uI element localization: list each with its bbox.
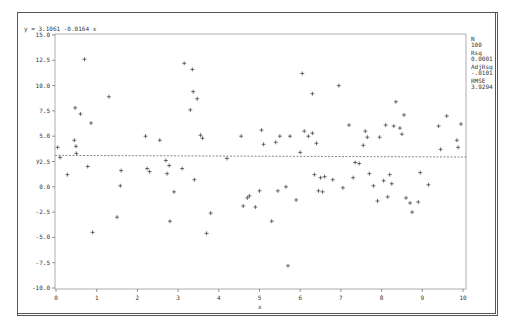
y-tick-label: -5.0	[36, 233, 51, 240]
data-point	[107, 95, 111, 99]
data-point	[119, 169, 123, 173]
stat-value: -.0101	[471, 69, 493, 76]
data-point	[388, 173, 392, 177]
data-point	[78, 112, 82, 116]
data-point	[276, 189, 280, 193]
x-tick-label: 10	[459, 294, 467, 301]
data-points	[56, 57, 463, 267]
plot-area	[55, 34, 466, 289]
data-point	[239, 134, 243, 138]
data-point	[408, 201, 412, 205]
y-tick-label: 5.0	[39, 132, 50, 139]
data-point	[455, 138, 459, 142]
data-point	[400, 132, 404, 136]
y-tick-label: 10.0	[36, 82, 51, 89]
data-point	[312, 173, 316, 177]
fit-statistics: N100Rsq0.0001AdjRsq-.0101RMSE3.9294	[471, 35, 493, 90]
data-point	[371, 184, 375, 188]
x-tick-label: 2	[136, 294, 140, 301]
data-point	[319, 176, 323, 180]
data-point	[353, 161, 357, 165]
data-point	[253, 205, 257, 209]
stat-value: 0.0001	[471, 55, 493, 62]
data-point	[115, 215, 119, 219]
data-point	[165, 172, 169, 176]
data-point	[382, 179, 386, 183]
data-point	[367, 172, 371, 176]
y-tick-label: 7.5	[39, 107, 50, 114]
data-point	[390, 182, 394, 186]
y-tick-label: 0.0	[39, 183, 50, 190]
data-point	[225, 156, 229, 160]
x-tick-label: 5	[258, 294, 262, 301]
data-point	[410, 210, 414, 214]
data-point	[190, 67, 194, 71]
x-tick-label: 8	[380, 294, 384, 301]
data-point	[365, 135, 369, 139]
data-point	[245, 196, 249, 200]
data-point	[258, 189, 262, 193]
data-point	[376, 199, 380, 203]
data-point	[384, 123, 388, 127]
data-point	[198, 133, 202, 137]
data-point	[437, 124, 441, 128]
data-point	[294, 198, 298, 202]
x-tick-label: 0	[54, 294, 58, 301]
data-point	[439, 147, 443, 151]
x-tick-label: 1	[95, 294, 99, 301]
data-point	[314, 141, 318, 145]
data-point	[260, 128, 264, 132]
data-point	[331, 178, 335, 182]
data-point	[58, 155, 62, 159]
y-tick-label: 15.0	[36, 31, 51, 38]
data-point	[286, 264, 290, 268]
data-point	[306, 134, 310, 138]
y-tick-label: 2.5	[39, 158, 50, 165]
data-point	[284, 185, 288, 189]
data-point	[394, 100, 398, 104]
x-tick-label: 4	[217, 294, 221, 301]
data-point	[164, 158, 168, 162]
y-tick-label: 12.5	[36, 56, 51, 63]
data-point	[351, 176, 355, 180]
data-point	[300, 71, 304, 75]
data-point	[168, 219, 172, 223]
data-point	[402, 113, 406, 117]
y-tick-label: -7.5	[36, 259, 51, 266]
data-point	[337, 84, 341, 88]
data-point	[195, 97, 199, 101]
data-point	[82, 57, 86, 61]
data-point	[310, 131, 314, 135]
data-point	[262, 142, 266, 146]
data-point	[247, 194, 251, 198]
x-axis: 012345678910	[54, 289, 467, 301]
data-point	[89, 121, 93, 125]
data-point	[91, 230, 95, 234]
data-point	[65, 173, 69, 177]
data-point	[205, 231, 209, 235]
data-point	[347, 123, 351, 127]
data-point	[182, 61, 186, 65]
data-point	[363, 129, 367, 133]
data-point	[191, 90, 195, 94]
data-point	[73, 106, 77, 110]
data-point	[158, 138, 162, 142]
stat-value: 3.9294	[471, 83, 493, 90]
data-point	[148, 170, 152, 174]
y-axis-label: y	[36, 157, 40, 165]
data-point	[310, 92, 314, 96]
data-point	[445, 114, 449, 118]
data-point	[288, 134, 292, 138]
data-point	[459, 122, 463, 126]
x-tick-label: 3	[176, 294, 180, 301]
data-point	[74, 151, 78, 155]
data-point	[274, 140, 278, 144]
scatter-plot: y = 3.1061 -0.0164 x 15.012.510.07.55.02…	[0, 0, 510, 334]
x-tick-label: 7	[339, 294, 343, 301]
data-point	[416, 200, 420, 204]
data-point	[456, 145, 460, 149]
data-point	[426, 183, 430, 187]
data-point	[86, 165, 90, 169]
data-point	[361, 143, 365, 147]
data-point	[180, 167, 184, 171]
